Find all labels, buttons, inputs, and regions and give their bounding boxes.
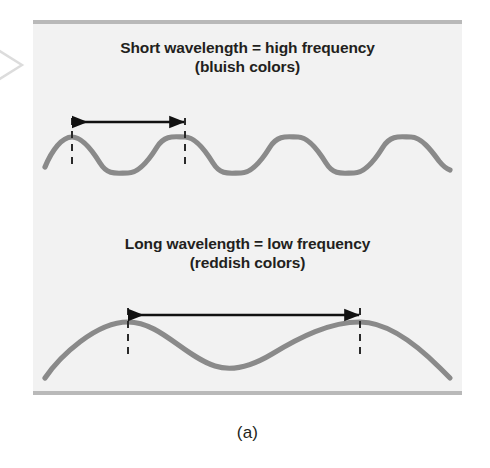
wave-vector-layer <box>0 0 490 468</box>
long-wavelength-wave <box>45 322 450 378</box>
wavelength-frequency-figure: Short wavelength = high frequency (bluis… <box>0 0 490 468</box>
figure-caption: (a) <box>33 423 462 443</box>
short-wavelength-wave <box>45 137 450 174</box>
